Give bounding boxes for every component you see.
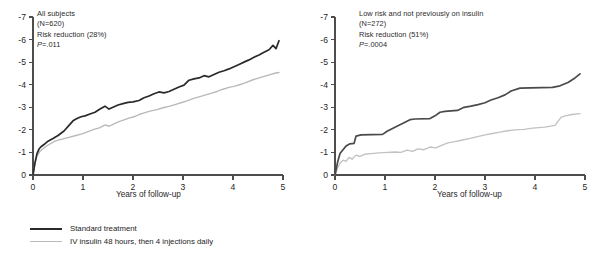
chart-panel-left: 0-1-2-3-4-5-6-7012345 All subjects (N=62…: [0, 0, 302, 210]
left-annot-line-1: All subjects: [37, 9, 107, 19]
y-tick-label: 0: [323, 170, 328, 180]
y-tick-label: -2: [18, 125, 26, 135]
x-tick-label: 4: [231, 182, 236, 192]
legend: Standard treatment IV insulin 48 hours, …: [30, 222, 450, 248]
left-p-value: =.011: [42, 40, 60, 49]
series-line-insulin: [335, 114, 580, 175]
right-annot-line-4: P=.0004: [359, 40, 483, 50]
y-tick-label: 0: [21, 170, 26, 180]
x-tick-label: 1: [383, 182, 388, 192]
x-tick-label: 4: [533, 182, 538, 192]
right-annot-line-3: Risk reduction (51%): [359, 30, 483, 40]
legend-swatch-insulin-icon: [30, 241, 62, 242]
right-annot-line-1: Low risk and not previously on insulin: [359, 9, 483, 19]
x-tick-label: 1: [81, 182, 86, 192]
x-tick-label: 0: [31, 182, 36, 192]
y-tick-label: -4: [18, 80, 26, 90]
series-line-standard: [33, 41, 279, 175]
y-tick-label: -3: [320, 102, 328, 112]
legend-swatch-standard-icon: [30, 228, 62, 230]
left-x-axis-title: Years of follow-up: [116, 190, 181, 199]
y-tick-label: -5: [320, 57, 328, 67]
right-x-axis-title: Years of follow-up: [437, 190, 502, 199]
left-annot-line-2: (N=620): [37, 19, 107, 29]
legend-item-insulin: IV insulin 48 hours, then 4 injections d…: [30, 235, 450, 248]
y-tick-label: -6: [320, 35, 328, 45]
left-panel-annotation: All subjects (N=620) Risk reduction (28%…: [37, 9, 107, 51]
y-tick-label: -7: [18, 12, 26, 22]
series-line-standard: [335, 74, 580, 175]
right-p-value: =.0004: [364, 40, 387, 49]
legend-label-insulin: IV insulin 48 hours, then 4 injections d…: [70, 237, 213, 246]
left-annot-line-3: Risk reduction (28%): [37, 30, 107, 40]
x-tick-label: 3: [181, 182, 186, 192]
y-tick-label: -1: [18, 147, 26, 157]
legend-label-standard: Standard treatment: [70, 224, 137, 233]
y-tick-label: -1: [320, 147, 328, 157]
y-tick-label: -6: [18, 35, 26, 45]
figure-container: 0-1-2-3-4-5-6-7012345 All subjects (N=62…: [0, 0, 604, 259]
x-tick-label: 5: [281, 182, 286, 192]
y-tick-label: -4: [320, 80, 328, 90]
y-tick-label: -3: [18, 102, 26, 112]
legend-item-standard: Standard treatment: [30, 222, 450, 235]
y-tick-label: -2: [320, 125, 328, 135]
y-tick-label: -5: [18, 57, 26, 67]
y-tick-label: -7: [320, 12, 328, 22]
x-tick-label: 5: [583, 182, 588, 192]
left-annot-line-4: P=.011: [37, 40, 107, 50]
right-annot-line-2: (N=272): [359, 19, 483, 29]
right-panel-annotation: Low risk and not previously on insulin (…: [359, 9, 483, 51]
x-tick-label: 0: [333, 182, 338, 192]
